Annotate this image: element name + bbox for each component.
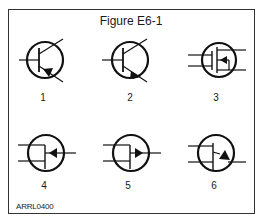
symbol-label-5: 5 xyxy=(118,180,138,191)
npn-transistor-symbol xyxy=(97,35,167,90)
symbol-label-3: 3 xyxy=(206,92,226,103)
symbol-label-4: 4 xyxy=(34,180,54,191)
figure-code: ARRL0400 xyxy=(16,202,54,211)
dual-gate-mosfet-symbol xyxy=(184,35,254,90)
p-channel-jfet-symbol xyxy=(99,128,169,183)
symbol-label-1: 1 xyxy=(33,92,53,103)
symbol-label-6: 6 xyxy=(204,180,224,191)
pnp-transistor-symbol xyxy=(15,35,85,90)
figure-title: Figure E6-1 xyxy=(0,14,262,28)
symbol-label-2: 2 xyxy=(120,92,140,103)
unijunction-transistor-symbol xyxy=(184,128,254,183)
n-channel-jfet-symbol xyxy=(14,128,84,183)
